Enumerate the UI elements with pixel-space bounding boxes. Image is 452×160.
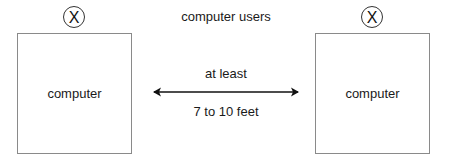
user-marker-right-icon: X	[361, 6, 383, 28]
distance-label-bottom: 7 to 10 feet	[166, 104, 286, 119]
user-marker-left-icon: X	[63, 6, 85, 28]
computer-label-left: computer	[18, 86, 131, 101]
computer-box-left: computer	[17, 33, 132, 154]
double-arrow-icon	[150, 84, 302, 100]
computer-label-right: computer	[316, 86, 429, 101]
distance-label-top: at least	[176, 66, 276, 81]
diagram-title: computer users	[176, 9, 276, 24]
computer-box-right: computer	[315, 33, 430, 154]
